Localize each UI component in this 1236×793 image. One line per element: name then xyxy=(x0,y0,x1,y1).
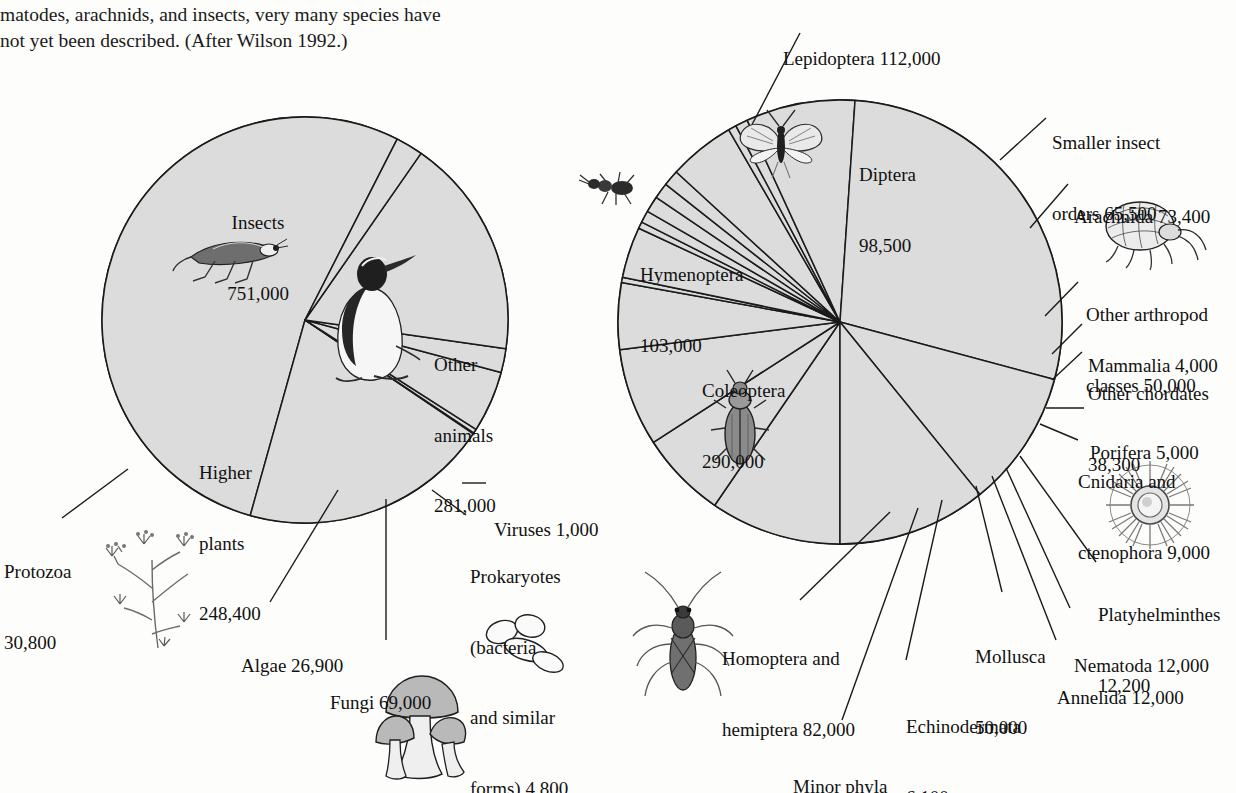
label-hymenoptera: Hymenoptera 103,000 xyxy=(640,216,810,404)
leader-mollusca xyxy=(976,486,1002,592)
leader-cnidaria xyxy=(1040,424,1078,440)
label-lepidoptera: Lepidoptera 112,000 xyxy=(783,0,1043,118)
caption-line-2: not yet been described. (After Wilson 19… xyxy=(0,28,348,54)
figure-stage: matodes, arachnids, and insects, very ma… xyxy=(0,0,1236,793)
ant-insect-illustration xyxy=(579,172,634,205)
leader-protozoa xyxy=(62,469,128,518)
label-diptera: Diptera 98,500 xyxy=(859,116,989,304)
caption-line-1: matodes, arachnids, and insects, very ma… xyxy=(0,2,441,28)
label-insects: Insects 751,000 xyxy=(196,164,320,352)
leader-smaller-insect-orders xyxy=(1000,118,1046,160)
true-bug-hemiptera-illustration xyxy=(633,572,733,696)
label-prokaryotes: Prokaryotes (bacteria and similar forms)… xyxy=(470,518,630,793)
label-homoptera-hemiptera: Homoptera and hemiptera 82,000 xyxy=(722,600,922,788)
label-protozoa: Protozoa 30,800 xyxy=(4,513,134,701)
